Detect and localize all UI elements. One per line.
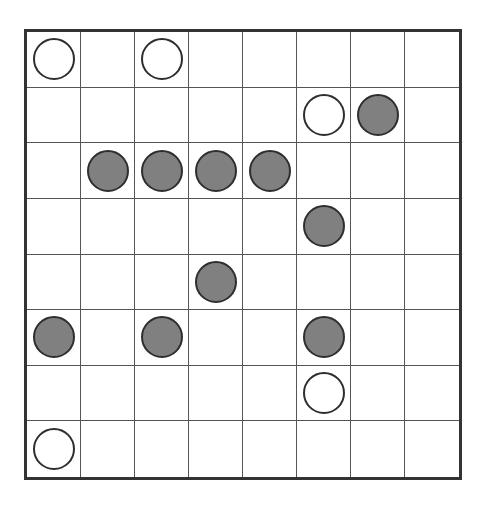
board-cell-r0-c2[interactable] [135,32,189,88]
white-piece-icon[interactable] [33,38,75,80]
board-cell-r6-c1[interactable] [81,366,135,422]
board-cell-r0-c5[interactable] [297,32,351,88]
board-cell-r1-c0[interactable] [27,88,81,144]
board-cell-r3-c2[interactable] [135,199,189,255]
board-cell-r6-c3[interactable] [189,366,243,422]
board-cell-r1-c1[interactable] [81,88,135,144]
gray-piece-icon[interactable] [33,316,75,358]
board-cell-r5-c7[interactable] [405,310,459,366]
board-cell-r3-c1[interactable] [81,199,135,255]
board-cell-r3-c3[interactable] [189,199,243,255]
board-cell-r2-c5[interactable] [297,143,351,199]
gray-piece-icon[interactable] [249,150,291,192]
board-cell-r1-c4[interactable] [243,88,297,144]
board-cell-r6-c7[interactable] [405,366,459,422]
board-cell-r3-c4[interactable] [243,199,297,255]
board-cell-r5-c0[interactable] [27,310,81,366]
gray-piece-icon[interactable] [303,205,345,247]
board-cell-r7-c1[interactable] [81,421,135,477]
board-cell-r5-c5[interactable] [297,310,351,366]
board-cell-r2-c4[interactable] [243,143,297,199]
board-cell-r1-c3[interactable] [189,88,243,144]
board-cell-r0-c1[interactable] [81,32,135,88]
gray-piece-icon[interactable] [357,94,399,136]
board-cell-r2-c7[interactable] [405,143,459,199]
board-cell-r7-c7[interactable] [405,421,459,477]
board-cell-r7-c2[interactable] [135,421,189,477]
board-cell-r7-c4[interactable] [243,421,297,477]
board-cell-r2-c3[interactable] [189,143,243,199]
gray-piece-icon[interactable] [303,316,345,358]
board-cell-r3-c7[interactable] [405,199,459,255]
board-cell-r5-c1[interactable] [81,310,135,366]
board-cell-r5-c3[interactable] [189,310,243,366]
board-cell-r4-c2[interactable] [135,255,189,311]
board-cell-r3-c5[interactable] [297,199,351,255]
board-cell-r4-c4[interactable] [243,255,297,311]
board-cell-r5-c6[interactable] [351,310,405,366]
gray-piece-icon[interactable] [195,150,237,192]
game-board [24,29,462,480]
board-cell-r1-c5[interactable] [297,88,351,144]
board-cell-r0-c0[interactable] [27,32,81,88]
board-cell-r4-c5[interactable] [297,255,351,311]
board-cell-r3-c6[interactable] [351,199,405,255]
board-cell-r5-c4[interactable] [243,310,297,366]
board-cell-r4-c3[interactable] [189,255,243,311]
white-piece-icon[interactable] [141,38,183,80]
board-cell-r1-c6[interactable] [351,88,405,144]
board-cell-r5-c2[interactable] [135,310,189,366]
board-cell-r2-c0[interactable] [27,143,81,199]
white-piece-icon[interactable] [303,94,345,136]
board-cell-r1-c2[interactable] [135,88,189,144]
board-cell-r0-c6[interactable] [351,32,405,88]
gray-piece-icon[interactable] [141,316,183,358]
board-cell-r7-c5[interactable] [297,421,351,477]
board-cell-r0-c4[interactable] [243,32,297,88]
board-cell-r4-c1[interactable] [81,255,135,311]
board-cell-r6-c5[interactable] [297,366,351,422]
board-cell-r3-c0[interactable] [27,199,81,255]
board-cell-r7-c3[interactable] [189,421,243,477]
white-piece-icon[interactable] [303,372,345,414]
board-cell-r2-c2[interactable] [135,143,189,199]
board-cell-r4-c7[interactable] [405,255,459,311]
board-cell-r0-c7[interactable] [405,32,459,88]
board-cell-r7-c0[interactable] [27,421,81,477]
board-cell-r0-c3[interactable] [189,32,243,88]
board-cell-r6-c0[interactable] [27,366,81,422]
board-cell-r4-c6[interactable] [351,255,405,311]
board-cell-r1-c7[interactable] [405,88,459,144]
board-cell-r2-c6[interactable] [351,143,405,199]
white-piece-icon[interactable] [33,428,75,470]
board-cell-r6-c2[interactable] [135,366,189,422]
gray-piece-icon[interactable] [141,150,183,192]
board-cell-r4-c0[interactable] [27,255,81,311]
board-cell-r2-c1[interactable] [81,143,135,199]
gray-piece-icon[interactable] [87,150,129,192]
board-cell-r6-c6[interactable] [351,366,405,422]
board-cell-r7-c6[interactable] [351,421,405,477]
board-cell-r6-c4[interactable] [243,366,297,422]
gray-piece-icon[interactable] [195,261,237,303]
